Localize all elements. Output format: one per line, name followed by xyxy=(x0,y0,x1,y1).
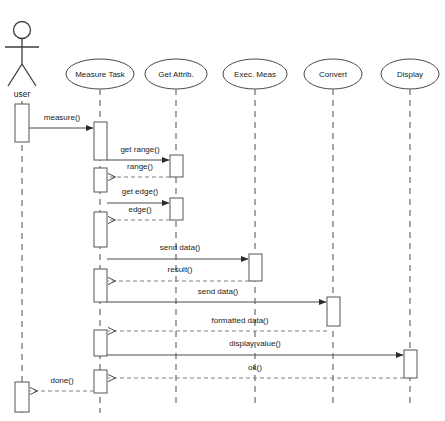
activation-box[interactable] xyxy=(15,104,29,142)
lifeline-heads: Measure Task Get Attrib. Exec. Meas Conv… xyxy=(66,59,439,89)
activation-box[interactable] xyxy=(327,297,340,326)
message-label: send data() xyxy=(160,243,201,252)
message-label: done() xyxy=(50,376,73,385)
activation-box[interactable] xyxy=(170,155,183,177)
actor-label: user xyxy=(14,89,31,99)
message-label: ok() xyxy=(248,363,262,372)
actor-leg-left xyxy=(8,64,22,86)
message-label: get edge() xyxy=(122,187,159,196)
uml-sequence-diagram: user Measure Task Get Attrib. Exec. Meas… xyxy=(0,0,445,421)
activation-box[interactable] xyxy=(94,269,107,302)
lifeline-label-exec-meas: Exec. Meas xyxy=(234,70,276,79)
message-result-return[interactable]: result() xyxy=(108,265,249,281)
message-label: measure() xyxy=(44,113,81,122)
message-get-edge[interactable]: get edge() xyxy=(107,187,169,203)
activation-box[interactable] xyxy=(249,254,262,281)
lifeline-head-get-attrib[interactable]: Get Attrib. xyxy=(145,59,207,89)
actor-leg-right xyxy=(22,64,36,86)
lifeline-label-convert: Convert xyxy=(319,70,348,79)
message-label: range() xyxy=(127,162,153,171)
message-done-return[interactable]: done() xyxy=(30,376,94,391)
message-label: formatted data() xyxy=(212,316,269,325)
lifeline-head-convert[interactable]: Convert xyxy=(304,59,362,89)
lifeline-head-measure-task[interactable]: Measure Task xyxy=(66,59,134,89)
message-formatted-data-return[interactable]: formatted data() xyxy=(108,316,327,331)
activation-bars xyxy=(15,104,417,412)
activation-box[interactable] xyxy=(94,122,107,160)
activation-box[interactable] xyxy=(94,212,107,247)
activation-box[interactable] xyxy=(94,370,107,393)
message-label: display value() xyxy=(229,339,281,348)
message-range-return[interactable]: range() xyxy=(108,162,170,177)
activation-box[interactable] xyxy=(94,330,107,356)
message-label: get range() xyxy=(120,145,159,154)
lifeline-label-display: Display xyxy=(397,70,423,79)
lifeline-head-exec-meas[interactable]: Exec. Meas xyxy=(223,59,287,89)
message-send-data-exec[interactable]: send data() xyxy=(107,243,248,259)
activation-box[interactable] xyxy=(404,350,417,378)
message-send-data-convert[interactable]: send data() xyxy=(107,287,326,302)
actor-user: user xyxy=(5,22,39,100)
message-measure[interactable]: measure() xyxy=(29,113,93,128)
lifeline-head-display[interactable]: Display xyxy=(381,59,439,89)
message-display-value[interactable]: display value() xyxy=(107,339,403,355)
activation-box[interactable] xyxy=(94,168,107,192)
message-get-range[interactable]: get range() xyxy=(107,145,169,160)
message-label: edge() xyxy=(128,205,151,214)
messages: measure() get range() range() get edge()… xyxy=(29,113,404,391)
message-ok-return[interactable]: ok() xyxy=(108,363,404,378)
lifeline-label-measure-task: Measure Task xyxy=(75,70,126,79)
lifeline-label-get-attrib: Get Attrib. xyxy=(158,70,194,79)
message-edge-return[interactable]: edge() xyxy=(108,205,170,220)
actor-head-icon xyxy=(14,22,31,39)
activation-box[interactable] xyxy=(170,198,183,220)
activation-box[interactable] xyxy=(15,382,29,412)
message-label: send data() xyxy=(198,287,239,296)
sequence-diagram-canvas: user Measure Task Get Attrib. Exec. Meas… xyxy=(0,0,445,421)
message-label: result() xyxy=(168,265,193,274)
lifeline-dash-lines xyxy=(22,89,410,413)
